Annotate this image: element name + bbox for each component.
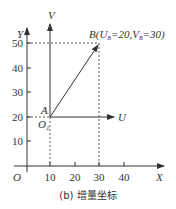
y-axis-label: Y (17, 28, 25, 40)
incremental-coordinates-diagram: 10 20 30 40 10 20 30 40 50 X Y O U V A O… (0, 0, 176, 209)
origin-label: O (13, 171, 21, 183)
figure-caption: (b) 增量坐标 (59, 189, 116, 201)
point-a-label: A (40, 104, 48, 116)
v-axis-label: V (48, 9, 56, 21)
y-ticks (27, 43, 31, 141)
point-b-label: B(UB=20,VB=30) (89, 28, 165, 41)
x-tick-label: 20 (70, 171, 82, 183)
u-axis-label: U (118, 111, 127, 123)
incremental-origin-label: O1 (38, 118, 49, 132)
y-tick-label: 30 (12, 86, 24, 98)
dashed-guides (27, 43, 99, 166)
x-axis-label: X (155, 171, 164, 183)
y-tick-label: 40 (12, 62, 24, 74)
segment-ab (50, 45, 98, 117)
y-tick-label: 10 (12, 135, 24, 147)
x-tick-label: 40 (119, 171, 131, 183)
x-tick-label: 30 (94, 171, 106, 183)
x-ticks (50, 162, 124, 166)
x-tick-label: 10 (45, 171, 57, 183)
y-tick-label: 20 (12, 111, 24, 123)
